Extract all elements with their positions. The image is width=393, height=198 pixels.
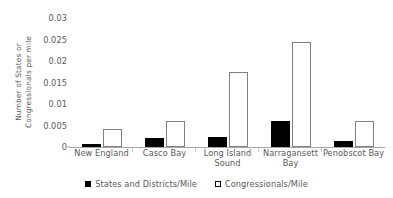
bar-group xyxy=(133,18,196,147)
legend-label: Congressionals/Mile xyxy=(225,180,308,188)
y-tick-label: 0.025 xyxy=(7,35,67,43)
bar-group xyxy=(322,18,385,147)
x-axis-label: Penobscot Bay xyxy=(322,149,385,169)
y-tick-label: 0.02 xyxy=(7,57,67,65)
bar-congressionals xyxy=(103,129,122,147)
bar-group xyxy=(259,18,322,147)
y-tick-label: 0.005 xyxy=(7,121,67,129)
bar-group xyxy=(70,18,133,147)
y-tick-label: 0.01 xyxy=(7,100,67,108)
legend-item: States and Districts/Mile xyxy=(85,180,197,188)
legend-item: Congressionals/Mile xyxy=(215,180,308,188)
y-tick-label: 0.015 xyxy=(7,78,67,86)
legend-label: States and Districts/Mile xyxy=(95,180,197,188)
bar-congressionals xyxy=(229,72,248,147)
x-axis-label: New England xyxy=(70,149,133,169)
x-axis-label: Casco Bay xyxy=(133,149,196,169)
chart-legend: States and Districts/MileCongressionals/… xyxy=(0,180,393,188)
legend-swatch-icon xyxy=(215,181,221,187)
legend-swatch-icon xyxy=(85,181,91,187)
y-tick-label: 0.03 xyxy=(7,14,67,22)
plot-area xyxy=(70,18,385,147)
x-axis-labels: New EnglandCasco BayLong Island SoundNar… xyxy=(70,149,385,169)
bar-states-districts xyxy=(208,137,227,147)
bar-group xyxy=(196,18,259,147)
bar-states-districts xyxy=(271,121,290,147)
x-axis-label: Long Island Sound xyxy=(196,149,259,169)
y-tick-label: 0 xyxy=(7,143,67,151)
bar-chart: Number of States or Congressionals per m… xyxy=(0,0,393,198)
bar-congressionals xyxy=(292,42,311,147)
bar-congressionals xyxy=(166,121,185,147)
bar-congressionals xyxy=(355,121,374,147)
x-axis-label: Narragansett Bay xyxy=(259,149,322,169)
